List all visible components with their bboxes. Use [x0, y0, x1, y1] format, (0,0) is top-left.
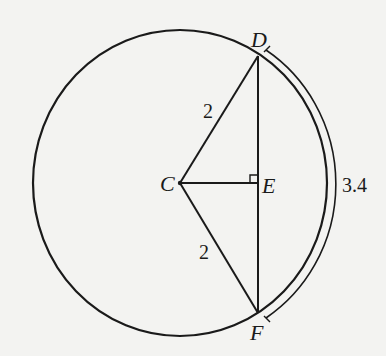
label-e: E: [261, 173, 276, 198]
label-f: F: [249, 320, 264, 345]
label-d: D: [250, 27, 267, 52]
center-point: [178, 181, 182, 185]
segment-cd: [180, 56, 258, 183]
label-cf-length: 2: [199, 241, 209, 263]
circle-diagram: D C E F 2 2 3.4: [0, 0, 386, 356]
arc-df-marker: [266, 50, 336, 318]
label-cd-length: 2: [203, 100, 213, 122]
label-c: C: [160, 171, 175, 196]
segment-cf: [180, 183, 258, 313]
right-angle-marker: [250, 175, 258, 183]
label-arc-length: 3.4: [342, 174, 367, 196]
